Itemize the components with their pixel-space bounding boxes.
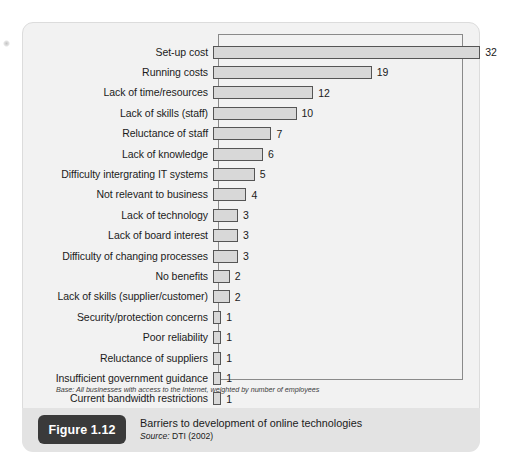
- bar: [213, 352, 221, 365]
- bar-value-label: 1: [226, 353, 232, 364]
- chart-row: Lack of skills (supplier/customer)2: [33, 287, 469, 307]
- bar: [213, 209, 238, 222]
- category-label: Poor reliability: [33, 332, 213, 343]
- category-label: Reluctance of staff: [33, 128, 213, 139]
- category-label: Difficulty of changing processes: [33, 251, 213, 262]
- bar: [213, 188, 246, 201]
- chart-row: Set-up cost32: [33, 42, 469, 62]
- bar-value-label: 1: [226, 373, 232, 384]
- chart-row: Reluctance of suppliers1: [33, 348, 469, 368]
- bar-value-label: 3: [243, 210, 249, 221]
- bar: [213, 66, 372, 79]
- category-label: Running costs: [33, 67, 213, 78]
- category-label: Lack of time/resources: [33, 87, 213, 98]
- source-prefix: Source:: [140, 431, 170, 441]
- category-label: No benefits: [33, 271, 213, 282]
- bar-track: 19: [213, 62, 469, 82]
- figure-caption-text: Barriers to development of online techno…: [140, 417, 470, 443]
- bar: [213, 331, 221, 344]
- bar-track: 3: [213, 246, 469, 266]
- bar: [213, 392, 221, 405]
- bar: [213, 290, 230, 303]
- bar-value-label: 19: [377, 67, 389, 78]
- scan-artifact-speck: [3, 40, 10, 47]
- bar-value-label: 6: [268, 149, 274, 160]
- source-value: DTI (2002): [170, 431, 213, 441]
- bar-track: 1: [213, 327, 469, 347]
- bar-value-label: 3: [243, 230, 249, 241]
- bar: [213, 229, 238, 242]
- category-label: Lack of board interest: [33, 230, 213, 241]
- chart-row: Lack of skills (staff)10: [33, 103, 469, 123]
- bar-chart: Set-up cost32Running costs19Lack of time…: [33, 32, 469, 380]
- bar-track: 1: [213, 307, 469, 327]
- bar: [213, 270, 230, 283]
- chart-row: Lack of technology3: [33, 205, 469, 225]
- category-label: Lack of knowledge: [33, 149, 213, 160]
- bar-value-label: 7: [276, 129, 282, 140]
- bar: [213, 168, 255, 181]
- bar: [213, 86, 313, 99]
- bar-track: 7: [213, 124, 469, 144]
- category-label: Not relevant to business: [33, 189, 213, 200]
- chart-row: No benefits2: [33, 266, 469, 286]
- chart-row: Running costs19: [33, 62, 469, 82]
- chart-row: Security/protection concerns1: [33, 307, 469, 327]
- category-label: Reluctance of suppliers: [33, 353, 213, 364]
- bar-track: 1: [213, 348, 469, 368]
- bar: [213, 311, 221, 324]
- category-label: Insufficient government guidance: [33, 373, 213, 384]
- base-note: Base: All businesses with access to the …: [56, 385, 319, 394]
- category-label: Lack of technology: [33, 210, 213, 221]
- bar-value-label: 10: [302, 108, 314, 119]
- chart-row: Difficulty intergrating IT systems5: [33, 164, 469, 184]
- bar-value-label: 4: [251, 190, 257, 201]
- bar-track: 12: [213, 83, 469, 103]
- category-label: Lack of skills (staff): [33, 108, 213, 119]
- bar: [213, 107, 297, 120]
- bar-value-label: 12: [318, 88, 330, 99]
- bar-track: 4: [213, 185, 469, 205]
- bar: [213, 250, 238, 263]
- chart-row: Poor reliability1: [33, 327, 469, 347]
- bar-value-label: 1: [226, 312, 232, 323]
- bar: [213, 46, 480, 59]
- bar-track: 3: [213, 205, 469, 225]
- chart-row: Difficulty of changing processes3: [33, 246, 469, 266]
- figure-title: Barriers to development of online techno…: [140, 417, 470, 430]
- category-label: Current bandwidth restrictions: [33, 393, 213, 404]
- chart-row: Lack of board interest3: [33, 226, 469, 246]
- chart-row: Lack of knowledge6: [33, 144, 469, 164]
- chart-row: Reluctance of staff7: [33, 124, 469, 144]
- category-label: Set-up cost: [33, 47, 213, 58]
- chart-row: Lack of time/resources12: [33, 83, 469, 103]
- bar: [213, 372, 221, 385]
- bar-track: 10: [213, 103, 469, 123]
- figure-card: Set-up cost32Running costs19Lack of time…: [22, 22, 480, 450]
- bar-track: 2: [213, 287, 469, 307]
- chart-row: Not relevant to business4: [33, 185, 469, 205]
- bar: [213, 148, 263, 161]
- figure-number-badge: Figure 1.12: [38, 415, 126, 444]
- bar-value-label: 3: [243, 251, 249, 262]
- bar: [213, 127, 271, 140]
- category-label: Lack of skills (supplier/customer): [33, 291, 213, 302]
- bar-value-label: 2: [235, 271, 241, 282]
- category-label: Difficulty intergrating IT systems: [33, 169, 213, 180]
- category-label: Security/protection concerns: [33, 312, 213, 323]
- chart-rows: Set-up cost32Running costs19Lack of time…: [33, 42, 469, 380]
- figure-source: Source: DTI (2002): [140, 431, 470, 442]
- figure-caption-bar: Figure 1.12 Barriers to development of o…: [22, 408, 480, 452]
- bar-value-label: 5: [260, 169, 266, 180]
- bar-value-label: 1: [226, 332, 232, 343]
- bar-value-label: 32: [485, 47, 497, 58]
- bar-track: 6: [213, 144, 469, 164]
- bar-track: 2: [213, 266, 469, 286]
- bar-track: 32: [213, 42, 497, 62]
- bar-value-label: 1: [226, 394, 232, 405]
- bar-track: 5: [213, 164, 469, 184]
- bar-track: 3: [213, 226, 469, 246]
- bar-value-label: 2: [235, 292, 241, 303]
